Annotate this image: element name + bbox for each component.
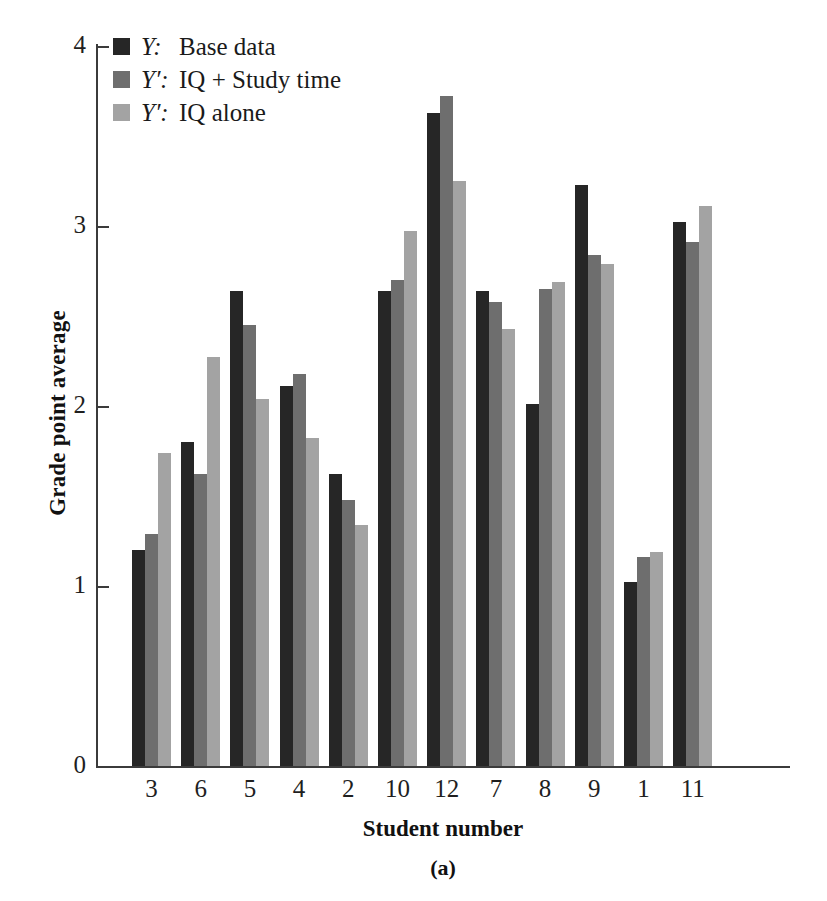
- figure-caption: (a): [96, 855, 790, 881]
- x-axis-title: Student number: [96, 816, 790, 842]
- bar: [158, 453, 171, 766]
- bar-chart-figure: 01234 Grade point average 36542101278911…: [0, 0, 827, 901]
- bar: [391, 280, 404, 766]
- bar: [194, 474, 207, 766]
- bar: [686, 242, 699, 766]
- bar: [673, 222, 686, 766]
- bar: [329, 474, 342, 766]
- bar: [256, 399, 269, 766]
- bar: [526, 404, 539, 766]
- plot-area: 01234 Grade point average 36542101278911…: [0, 0, 827, 901]
- bar: [552, 282, 565, 766]
- x-tick-label: 11: [663, 775, 723, 803]
- bar: [650, 552, 663, 766]
- legend-series-label: Base data: [179, 30, 275, 63]
- chart-legend: Y:Base dataY′:IQ + Study timeY′:IQ alone: [113, 30, 341, 129]
- bar: [207, 357, 220, 766]
- legend-item: Y:Base data: [113, 30, 341, 63]
- bar: [404, 231, 417, 766]
- bar: [355, 525, 368, 766]
- bar: [588, 255, 601, 766]
- bar: [453, 181, 466, 766]
- bar-groups: [0, 0, 827, 901]
- bar: [342, 500, 355, 766]
- legend-series-key: Y′:: [141, 96, 179, 129]
- bar: [624, 582, 637, 766]
- bar: [243, 325, 256, 766]
- legend-series-key: Y:: [141, 30, 179, 63]
- legend-series-label: IQ + Study time: [179, 63, 341, 96]
- bar: [601, 264, 614, 766]
- bar: [427, 113, 440, 766]
- bar: [132, 550, 145, 766]
- legend-series-label: IQ alone: [179, 96, 266, 129]
- bar: [440, 96, 453, 766]
- bar: [476, 291, 489, 766]
- legend-series-key: Y′:: [141, 63, 179, 96]
- bar: [502, 329, 515, 766]
- legend-swatch-icon: [113, 104, 130, 121]
- bar: [145, 534, 158, 766]
- bar: [575, 185, 588, 766]
- bar: [293, 374, 306, 766]
- bar: [539, 289, 552, 766]
- bar: [306, 438, 319, 766]
- bar: [378, 291, 391, 766]
- bar: [637, 557, 650, 766]
- legend-item: Y′:IQ + Study time: [113, 63, 341, 96]
- bar: [280, 386, 293, 766]
- bar: [230, 291, 243, 766]
- legend-swatch-icon: [113, 71, 130, 88]
- bar: [489, 302, 502, 766]
- legend-item: Y′:IQ alone: [113, 96, 341, 129]
- bar: [181, 442, 194, 766]
- bar: [699, 206, 712, 766]
- legend-swatch-icon: [113, 38, 130, 55]
